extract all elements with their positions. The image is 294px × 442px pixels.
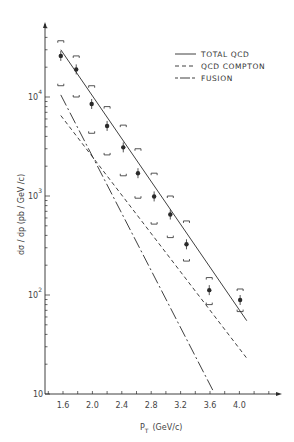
curve-fusion bbox=[61, 95, 214, 392]
data-point bbox=[151, 173, 157, 224]
y-axis-title: dσ / dp (pb / GeV /c) bbox=[17, 174, 26, 255]
data-marker bbox=[238, 298, 242, 302]
error-bracket-lower bbox=[58, 84, 64, 86]
data-point bbox=[58, 41, 64, 86]
data-marker bbox=[105, 124, 109, 128]
chart: 101021031041.62.02.42.83.23.64.0 TOTAL Q… bbox=[0, 0, 294, 442]
y-tick-label: 102 bbox=[28, 286, 42, 300]
curve-total-qcd bbox=[61, 50, 247, 321]
x-tick-label: 2.8 bbox=[145, 401, 158, 410]
error-bracket-lower bbox=[89, 131, 95, 133]
x-tick-label: 4.0 bbox=[233, 401, 246, 410]
legend-label-qcd-compton: QCD COMPTON bbox=[201, 62, 265, 71]
data-marker bbox=[207, 288, 211, 292]
data-point bbox=[135, 149, 141, 198]
series bbox=[58, 41, 247, 392]
error-bracket-upper bbox=[73, 56, 79, 58]
y-tick-label: 10 bbox=[33, 390, 43, 399]
x-axis-title: PT(GeV/c) bbox=[140, 423, 182, 434]
x-tick-label: 3.2 bbox=[174, 401, 187, 410]
data-point bbox=[206, 278, 212, 305]
data-marker bbox=[121, 145, 125, 149]
x-tick-label: 1.6 bbox=[57, 401, 70, 410]
x-tick-label: 3.6 bbox=[204, 401, 217, 410]
data-point bbox=[120, 125, 126, 176]
data-marker bbox=[136, 171, 140, 175]
axes: 101021031041.62.02.42.83.23.64.0 bbox=[28, 22, 282, 410]
x-axis-arrow-icon bbox=[276, 392, 282, 396]
data-marker bbox=[59, 54, 63, 58]
error-bracket-lower bbox=[104, 153, 110, 155]
curve-qcd-compton bbox=[61, 116, 247, 359]
error-bracket-lower bbox=[120, 174, 126, 176]
data-point bbox=[167, 196, 173, 238]
data-marker bbox=[89, 102, 93, 106]
error-bracket-upper bbox=[237, 289, 243, 291]
data-marker bbox=[168, 212, 172, 216]
x-tick-label: 2.4 bbox=[115, 401, 128, 410]
data-marker bbox=[184, 242, 188, 246]
legend-label-fusion: FUSION bbox=[201, 74, 233, 83]
error-bracket-upper bbox=[120, 125, 126, 127]
error-bracket-lower bbox=[183, 259, 189, 261]
y-tick-label: 104 bbox=[28, 88, 42, 102]
data-point bbox=[73, 56, 79, 97]
x-tick-label: 2.0 bbox=[86, 401, 99, 410]
error-bracket-upper bbox=[206, 278, 212, 280]
error-bracket-upper bbox=[167, 196, 173, 198]
legend-label-total-qcd: TOTAL QCD bbox=[200, 50, 250, 59]
error-bracket-upper bbox=[135, 149, 141, 151]
y-tick-label: 103 bbox=[28, 187, 42, 201]
error-bracket-upper bbox=[151, 173, 157, 175]
error-bracket-lower bbox=[206, 303, 212, 305]
data-point bbox=[89, 86, 95, 134]
legend: TOTAL QCD QCD COMPTON FUSION bbox=[175, 50, 265, 83]
y-axis-arrow-icon bbox=[43, 22, 47, 28]
error-bracket-upper bbox=[183, 221, 189, 223]
error-bracket-upper bbox=[58, 41, 64, 43]
error-bracket-lower bbox=[135, 196, 141, 198]
error-bracket-lower bbox=[151, 222, 157, 224]
data-marker bbox=[152, 194, 156, 198]
error-bracket-lower bbox=[167, 236, 173, 238]
data-point bbox=[183, 221, 189, 261]
error-bracket-upper bbox=[104, 107, 110, 109]
error-bracket-upper bbox=[89, 86, 95, 88]
error-bracket-lower bbox=[73, 95, 79, 97]
